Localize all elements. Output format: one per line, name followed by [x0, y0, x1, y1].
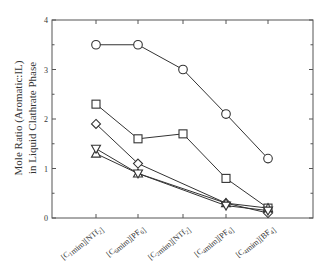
- y-tick-label: 0: [44, 214, 48, 223]
- square-marker: [134, 135, 142, 143]
- triangle-down-marker: [92, 145, 101, 153]
- series-triangle-up: [92, 149, 273, 211]
- y-axis-label: Mole Ratio (Aromatic:IL) in Liquid Clath…: [12, 60, 38, 175]
- circle-marker: [92, 40, 101, 49]
- square-marker: [179, 130, 187, 138]
- y-axis-label-line1: Mole Ratio (Aromatic:IL): [12, 60, 25, 175]
- circle-marker: [134, 40, 143, 49]
- x-tick-label: [C2mim][NTf2]: [146, 222, 193, 264]
- series-circle: [92, 40, 273, 162]
- y-tick-label: 1: [44, 165, 48, 174]
- square-marker: [222, 174, 230, 182]
- circle-marker: [264, 154, 273, 163]
- y-tick-label: 3: [44, 66, 48, 75]
- series-square: [92, 100, 272, 212]
- x-axis-ticks: [C1mim][NTf2][C6mim][PF6][C2mim][NTf2][C…: [59, 20, 278, 265]
- square-marker: [92, 100, 100, 108]
- x-tick-label: [C4mim][PF6]: [193, 222, 237, 261]
- y-axis-ticks: 01234: [44, 16, 313, 223]
- x-tick-label: [C4mim][BF4]: [234, 222, 278, 262]
- circle-marker: [222, 110, 231, 119]
- x-tick-label: [C1mim][NTf2]: [59, 222, 106, 264]
- data-series: [92, 40, 273, 217]
- circle-marker: [179, 65, 188, 74]
- series-triangle-down: [92, 145, 273, 215]
- x-tick-label: [C6mim][PF6]: [105, 222, 149, 261]
- y-tick-label: 4: [44, 16, 48, 25]
- y-axis-label-line2: in Liquid Clathrate Phase: [26, 62, 38, 174]
- y-tick-label: 2: [44, 115, 48, 124]
- line-chart: Mole Ratio (Aromatic:IL) in Liquid Clath…: [0, 0, 330, 273]
